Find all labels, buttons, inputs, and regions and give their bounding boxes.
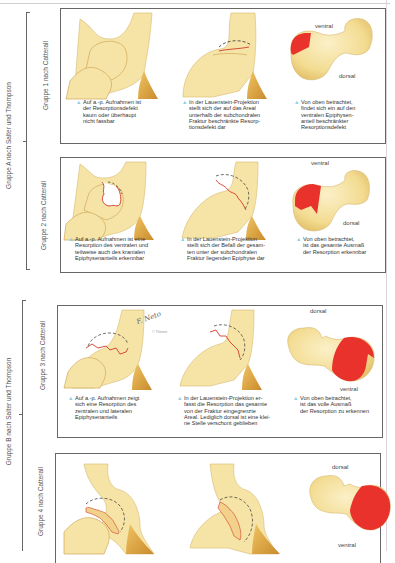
group-2-label: Gruppe 2 nach Catterall [40, 171, 47, 261]
panel-group-3: F. Neto © Thieme dorsal ventral ▲ Auf a.… [57, 305, 383, 438]
panel-group-4: dorsal ventral [55, 453, 381, 563]
caption-top-view: ▲ Von oben betrachtet, findet sich ein a… [301, 99, 381, 130]
direction-label-bottom: dorsal [343, 220, 359, 226]
group-a-bracket [26, 12, 31, 270]
ap-hip-illustration [64, 160, 164, 240]
femur-top-view-illustration [287, 164, 387, 240]
caption-lauenstein: ▲ In der Lauenstein-Projektion stellt si… [189, 99, 289, 130]
group-b-bracket [22, 300, 27, 551]
direction-label-top: ventral [315, 23, 333, 29]
direction-label-bottom: dorsal [339, 73, 355, 79]
lauenstein-illustration [173, 11, 273, 99]
ap-hip-illustration [66, 11, 166, 99]
direction-label-top: dorsal [332, 464, 348, 470]
group-4-label: Gruppe 4 nach Catterall [37, 457, 44, 547]
group-1-label: Gruppe 1 nach Catterall [42, 31, 49, 121]
caption-top-view: ▲ Von oben betrachtet, ist das gesamte A… [303, 236, 383, 255]
triangle-bullet-icon: ▲ [177, 395, 182, 401]
triangle-bullet-icon: ▲ [182, 99, 187, 105]
group-3-label: Gruppe 3 nach Catterall [39, 311, 46, 401]
lauenstein-illustration [176, 160, 276, 240]
lauenstein-illustration [174, 308, 274, 392]
copyright-note: © Thieme [152, 330, 167, 334]
direction-label-bottom: ventral [338, 542, 356, 548]
triangle-bullet-icon: ▲ [76, 99, 81, 105]
femur-top-view-illustration [284, 314, 384, 394]
panel-group-1: ventral dorsal ▲ Auf a.-p. Aufnahmen ist… [60, 8, 386, 144]
outer-group-label-a: Gruppe A nach Salter und Thompson [5, 66, 12, 206]
page-top-rule [0, 3, 390, 4]
lauenstein-illustration [188, 462, 298, 554]
caption-lauenstein: ▲ In der Lauenstein-Projektion er- fasst… [184, 395, 289, 426]
caption-ap: ▲ Auf a.-p. Aufnahmen zeigt sich eine Re… [75, 395, 175, 420]
triangle-bullet-icon: ▲ [68, 395, 73, 401]
triangle-bullet-icon: ▲ [294, 99, 299, 105]
triangle-bullet-icon: ▲ [68, 236, 73, 242]
caption-lauenstein: ▲ In der Lauenstein-Projektion stellt si… [187, 236, 287, 261]
triangle-bullet-icon: ▲ [296, 236, 301, 242]
triangle-bullet-icon: ▲ [180, 236, 185, 242]
outer-group-label-b: Gruppe B nach Salter und Thompson [5, 342, 12, 482]
triangle-bullet-icon: ▲ [293, 395, 298, 401]
caption-ap: ▲ Auf a.-p. Aufnahmen ist der Resorption… [83, 99, 173, 124]
panel-group-2: ventral dorsal ▲ Auf a.-p. Aufnahmen ist… [60, 157, 386, 273]
femur-top-view-illustration [306, 466, 395, 546]
caption-ap: ▲ Auf a.-p. Aufnahmen ist eine Resorptio… [75, 236, 175, 261]
caption-top-view: ▲ Von oben betrachtet, ist das volle Aus… [300, 395, 382, 414]
direction-label-top: ventral [311, 160, 329, 166]
ap-hip-illustration [64, 462, 174, 554]
direction-label-bottom: ventral [340, 386, 358, 392]
direction-label-top: dorsal [310, 308, 326, 314]
